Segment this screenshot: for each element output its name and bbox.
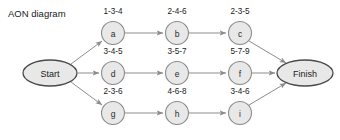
node-start[interactable]: Start [23,60,77,86]
node-b-label: b [175,29,180,39]
estimate-label-i: 3-4-6 [230,87,250,96]
aon-diagram-canvas: AON diagram Start Finish [0,0,340,140]
node-h-label: h [175,109,180,119]
node-a[interactable]: 1-3-4 a [102,7,125,45]
estimate-label-g: 2-3-6 [103,87,123,96]
page-title: AON diagram [8,8,66,19]
node-e[interactable]: 3-5-7 e [166,47,189,85]
node-d-label: d [111,69,116,79]
estimate-label-f: 5-7-9 [230,47,250,56]
estimate-label-d: 3-4-5 [103,47,123,56]
node-g-label: g [111,109,116,119]
edge-start-g [71,82,102,105]
edge-start-a [71,41,102,64]
estimate-label-a: 1-3-4 [103,7,123,16]
node-d[interactable]: 3-4-5 d [102,47,125,85]
node-e-label: e [175,69,180,79]
node-finish[interactable]: Finish [277,60,333,86]
edge-c-finish [249,41,286,63]
finish-label: Finish [293,69,317,79]
node-h[interactable]: 4-6-8 h [166,87,189,125]
node-c[interactable]: 2-3-5 c [229,7,252,45]
node-f[interactable]: 5-7-9 f [229,47,252,85]
estimate-label-c: 2-3-5 [230,7,250,16]
node-a-label: a [111,29,116,39]
start-label: Start [40,69,60,79]
node-b[interactable]: 2-4-6 b [166,7,189,45]
estimate-label-b: 2-4-6 [167,7,187,16]
node-i-label: i [239,109,241,119]
edge-i-finish [249,83,286,105]
node-i[interactable]: 3-4-6 i [229,87,252,125]
estimate-label-h: 4-6-8 [167,87,187,96]
aon-diagram-svg: AON diagram Start Finish [0,0,340,140]
node-g[interactable]: 2-3-6 g [102,87,125,125]
estimate-label-e: 3-5-7 [167,47,187,56]
